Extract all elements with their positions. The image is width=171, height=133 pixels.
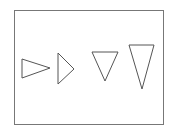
triangle-right-wide <box>22 59 50 78</box>
triangle-right-narrow <box>58 53 74 84</box>
triangle-down-tall <box>129 45 154 89</box>
frame <box>15 11 164 125</box>
diagram-canvas <box>0 0 171 133</box>
triangle-down-short <box>92 52 118 81</box>
